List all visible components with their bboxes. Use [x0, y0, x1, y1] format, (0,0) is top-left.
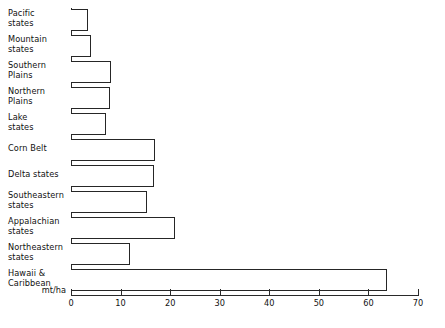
x-tick-70: [418, 289, 419, 296]
category-label-delta-states: Delta states: [8, 169, 68, 179]
bar-hawaii-caribbean: [71, 269, 387, 291]
category-label-pacific-states: Pacific states: [8, 8, 68, 28]
category-label-lake-states: Lake states: [8, 112, 68, 132]
x-tick-label-50: 50: [306, 298, 332, 308]
bar-lake-states: [71, 113, 106, 135]
x-tick-30: [220, 289, 221, 296]
x-tick-label-70: 70: [405, 298, 431, 308]
category-axis-labels: Pacific states Mountain states Southern …: [0, 0, 68, 290]
bar-chart: Pacific states Mountain states Southern …: [0, 0, 445, 328]
x-tick-50: [319, 289, 320, 296]
bar-corn-belt: [71, 139, 155, 161]
x-tick-10: [121, 289, 122, 296]
bar-delta-states: [71, 165, 154, 187]
x-tick-0: [71, 289, 72, 296]
bar-mountain-states: [71, 35, 91, 57]
plot-area: [71, 8, 421, 295]
x-axis-unit-label: mt/ha: [8, 285, 66, 295]
x-tick-60: [368, 289, 369, 296]
x-tick-40: [269, 289, 270, 296]
category-label-appalachian-states: Appalachian states: [8, 216, 68, 236]
category-label-southern-plains: Southern Plains: [8, 60, 68, 80]
x-tick-label-40: 40: [256, 298, 282, 308]
x-tick-label-20: 20: [157, 298, 183, 308]
x-tick-label-10: 10: [108, 298, 134, 308]
category-label-northeastern-states: Northeastern states: [8, 242, 68, 262]
x-axis-line: [71, 295, 419, 296]
category-label-southeastern-states: Southeastern states: [8, 190, 68, 210]
bar-northern-plains: [71, 87, 110, 109]
x-tick-label-60: 60: [355, 298, 381, 308]
x-tick-label-0: 0: [58, 298, 84, 308]
category-label-mountain-states: Mountain states: [8, 34, 68, 54]
category-label-corn-belt: Corn Belt: [8, 143, 68, 153]
bar-southeastern-states: [71, 191, 147, 213]
bar-southern-plains: [71, 61, 111, 83]
bar-pacific-states: [71, 9, 88, 31]
x-tick-label-30: 30: [207, 298, 233, 308]
x-tick-20: [170, 289, 171, 296]
bar-appalachian-states: [71, 217, 175, 239]
bar-northeastern-states: [71, 243, 130, 265]
category-label-northern-plains: Northern Plains: [8, 86, 68, 106]
